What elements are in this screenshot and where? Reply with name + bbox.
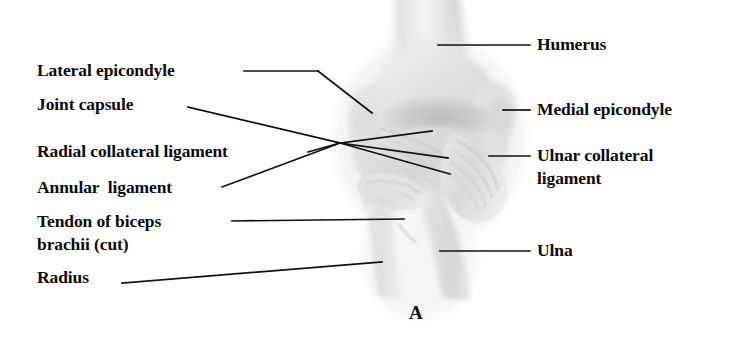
label-lateral-epicondyle: Lateral epicondyle <box>37 60 175 81</box>
label-medial-epicondyle: Medial epicondyle <box>537 99 672 120</box>
ambient-tone <box>334 36 526 320</box>
label-ulna: Ulna <box>537 240 573 261</box>
label-tendon-of-biceps-brachii-line1: Tendon of biceps <box>37 211 161 232</box>
label-annular-ligament: Annular ligament <box>37 177 172 198</box>
anatomical-figure-panel: Lateral epicondyle Joint capsule Radial … <box>0 0 753 342</box>
elbow-joint-illustration <box>0 0 753 342</box>
label-ulnar-collateral-ligament-line2: ligament <box>537 168 601 189</box>
label-radius: Radius <box>37 267 89 288</box>
figure-letter: A <box>409 302 423 324</box>
label-tendon-of-biceps-brachii-line2: brachii (cut) <box>37 234 129 255</box>
label-radial-collateral-ligament: Radial collateral ligament <box>37 141 228 162</box>
label-ulnar-collateral-ligament-line1: Ulnar collateral <box>537 145 653 166</box>
label-joint-capsule: Joint capsule <box>37 94 133 115</box>
label-humerus: Humerus <box>537 34 606 55</box>
